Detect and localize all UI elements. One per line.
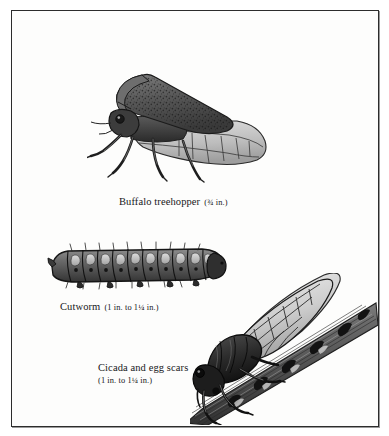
caption-size: (¾ in.): [204, 198, 227, 207]
caption-size: (1 in. to 1¼ in.): [104, 303, 158, 312]
buffalo-treehopper-illustration: [87, 59, 287, 187]
caption-cutworm: Cutworm (1 in. to 1¼ in.): [60, 296, 159, 314]
caption-name: Cutworm: [60, 301, 100, 312]
caption-size: (1 in. to 1¼ in.): [98, 376, 188, 385]
cicada-on-branch-illustration: [190, 273, 378, 425]
caption-name: Buffalo treehopper: [119, 196, 200, 207]
caption-cicada: Cicada and egg scars (1 in. to 1¼ in.): [98, 357, 188, 385]
illustration-plate: Buffalo treehopper (¾ in.): [11, 10, 379, 427]
caption-buffalo-treehopper: Buffalo treehopper (¾ in.): [119, 191, 228, 209]
caption-name: Cicada and egg scars: [98, 362, 188, 373]
